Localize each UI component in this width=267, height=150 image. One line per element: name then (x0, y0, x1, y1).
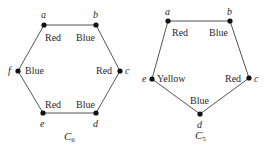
c6-caption: C6 (64, 130, 75, 144)
c6-vertex-e-name: e (40, 118, 45, 129)
c6-vertex-c (117, 68, 122, 73)
c6-vertex-d (93, 110, 98, 115)
c6-vertex-c-name: c (125, 65, 130, 76)
c6-vertex-b-name: b (93, 9, 98, 20)
c6-vertex-f-name: f (8, 65, 12, 76)
c5-vertex-d-color: Blue (190, 95, 209, 106)
c6-vertex-d-name: d (93, 118, 99, 129)
c6-vertex-b (93, 22, 98, 27)
c5-vertex-e (149, 76, 154, 81)
c5-vertex-a-name: a (165, 6, 170, 17)
c5-vertex-c (246, 75, 251, 80)
c5-vertex-c-color: Red (225, 73, 241, 84)
c5-vertex-e-color: Yellow (157, 73, 186, 84)
c6-vertex-b-color: Blue (76, 32, 95, 43)
graph-c5: a b c d e Red Blue Red Blue Yellow C5 (142, 6, 259, 143)
c6-vertex-e (40, 110, 45, 115)
c6-vertex-f (15, 68, 20, 73)
graph-coloring-diagram: a b c d e f Red Blue Red Blue Red Blue C… (0, 0, 267, 150)
c6-vertex-f-color: Blue (25, 65, 44, 76)
c5-vertex-b (227, 18, 232, 23)
c6-vertex-a-color: Red (45, 32, 61, 43)
c5-vertex-d (197, 111, 202, 116)
c6-vertex-a (41, 22, 46, 27)
c6-vertex-d-color: Blue (76, 99, 95, 110)
c5-vertex-a-color: Red (172, 27, 188, 38)
c5-vertex-c-name: c (254, 73, 259, 84)
c5-vertex-a (165, 18, 170, 23)
c6-vertex-e-color: Red (45, 99, 61, 110)
c5-vertex-b-name: b (227, 6, 232, 17)
c5-caption: C5 (195, 129, 206, 143)
c6-vertex-c-color: Red (96, 65, 112, 76)
c5-vertex-e-name: e (142, 73, 147, 84)
c6-vertex-a-name: a (41, 9, 46, 20)
c5-vertex-b-color: Blue (209, 27, 228, 38)
graph-c6: a b c d e f Red Blue Red Blue Red Blue C… (8, 9, 130, 144)
